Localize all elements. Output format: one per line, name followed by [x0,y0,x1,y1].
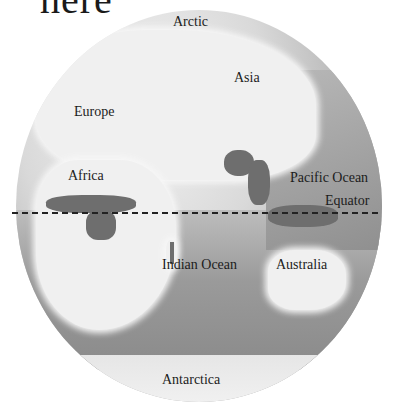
africa-rainforest-2 [86,210,116,240]
label-africa: Africa [68,168,104,184]
label-europe: Europe [74,104,114,120]
equator-line [12,212,378,214]
africa-rainforest [46,195,136,213]
label-pacific-ocean: Pacific Ocean [290,170,368,186]
label-asia: Asia [234,70,260,86]
title-fragment: here [40,0,113,23]
label-indian-ocean: Indian Ocean [162,257,237,273]
label-australia: Australia [276,257,327,273]
sea-rainforest [248,160,270,205]
label-equator: Equator [325,193,369,209]
label-antarctica: Antarctica [162,372,220,388]
label-arctic: Arctic [173,14,208,30]
